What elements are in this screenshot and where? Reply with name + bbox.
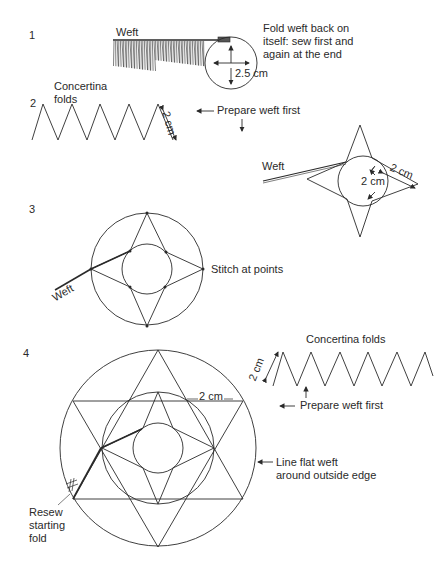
step-number-3: 3 (29, 203, 35, 216)
step2-weft-label: Weft (262, 160, 284, 173)
step1-instruction: Fold weft back on itself: sew first and … (263, 22, 353, 61)
step1-weft-label: Weft (116, 26, 138, 39)
step2-concertina-zigzag (32, 104, 173, 140)
step4-folds-label: Concertina folds (306, 333, 386, 346)
step-number-4: 4 (23, 347, 29, 360)
step3-stitch-label: Stitch at points (211, 263, 283, 276)
step-number-2: 2 (30, 97, 36, 110)
step2-circle-measure: 2 cm (361, 175, 385, 188)
step4-star-rosette (58, 350, 256, 547)
step1-weft-fringe (113, 37, 230, 71)
step1-circle (205, 37, 257, 89)
step1-measure: 2.5 cm (235, 67, 268, 80)
step4-prepare-label: Prepare weft first (300, 399, 383, 412)
step2-prepare-label: Prepare weft first (217, 104, 300, 117)
step4-resew-label: Resew starting fold (29, 506, 65, 545)
step4-concertina-zigzag (273, 352, 433, 386)
step4-edge-label: Line flat weft around outside edge (276, 456, 376, 482)
step2-star (263, 125, 418, 237)
step4-gap-measure: 2 cm (199, 390, 223, 403)
step-number-1: 1 (29, 29, 35, 42)
step2-folds-label: Concertina folds (54, 80, 107, 106)
step3-circle-star (55, 212, 205, 328)
